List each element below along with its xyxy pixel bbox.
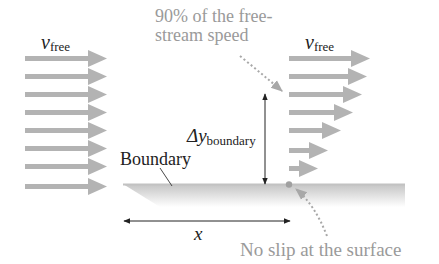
no-slip-annotation: No slip at the surface [240,240,401,260]
x-label: x [194,224,202,243]
arrow-icon [289,160,318,177]
boundary-leader-line [160,168,172,186]
arrow-icon [25,86,107,103]
arrow-icon [25,104,107,121]
arrow-icon [289,86,362,103]
surface-plate [123,184,405,207]
v-free-left-label: vfree [41,32,70,52]
boundary-label: Boundary [120,150,191,168]
arrow-icon [25,68,107,85]
delta-y-boundary-label: Δyboundary [187,126,256,145]
arrow-icon [25,122,107,139]
left-velocity-arrows [25,50,107,195]
v-free-right-label: vfree [305,32,334,52]
arrow-icon [25,178,107,195]
no-slip-dot [286,181,292,187]
arrow-icon [289,122,341,139]
arrow-icon [25,158,107,175]
ninety-percent-pointer [240,56,282,91]
arrow-icon [289,68,367,85]
arrow-icon [289,104,353,121]
arrow-icon [289,142,328,159]
boundary-layer-diagram: vfree vfree 90% of the free- stream spee… [0,0,439,264]
right-velocity-arrows [289,50,370,177]
arrow-icon [25,140,107,157]
ninety-percent-annotation: 90% of the free- stream speed [155,7,272,45]
